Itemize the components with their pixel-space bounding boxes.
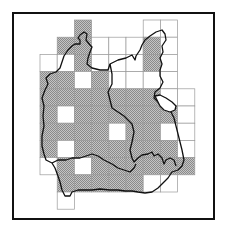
grid-cell-empty [57, 106, 74, 123]
grid-cell-empty [126, 37, 143, 54]
grid-cell-recorded [126, 175, 143, 192]
grid-cell-recorded [109, 158, 126, 175]
grid-cell-recorded [74, 37, 91, 54]
grid-cell-recorded [143, 106, 160, 123]
grid-cell-recorded [40, 72, 57, 89]
grid-cell-recorded [74, 89, 91, 106]
grid-cell-recorded [143, 158, 160, 175]
grid-cell-empty [143, 72, 160, 89]
grid-cell-recorded [92, 123, 109, 140]
grid-cell-empty [109, 123, 126, 140]
grid-cell-recorded [92, 106, 109, 123]
map-canvas [0, 0, 229, 235]
grid-cell-recorded [143, 123, 160, 140]
grid-cell-recorded [57, 89, 74, 106]
grid-cell-recorded [143, 54, 160, 71]
grid-cell-empty [143, 175, 160, 192]
grid-cell-empty [160, 20, 177, 37]
grid-cell-recorded [126, 140, 143, 157]
grid-cell-empty [74, 72, 91, 89]
grid-cell-empty [57, 140, 74, 157]
grid-cell-empty [160, 123, 177, 140]
grid-cell-empty [178, 106, 195, 123]
grid-cell-recorded [74, 20, 91, 37]
grid-cell-empty [126, 72, 143, 89]
grid-cell-recorded [92, 72, 109, 89]
grid-cell-recorded [109, 140, 126, 157]
grid-cell-recorded [92, 158, 109, 175]
grid-cell-recorded [109, 106, 126, 123]
grid-cell-recorded [160, 140, 177, 157]
grid-cell-empty [92, 37, 109, 54]
grid-cell-empty [109, 37, 126, 54]
grid-cell-recorded [57, 72, 74, 89]
grid-cell-empty [160, 72, 177, 89]
grid-cell-empty [74, 158, 91, 175]
grid-cell-recorded [178, 158, 195, 175]
grid-cell-empty [178, 123, 195, 140]
grid-cell-empty [178, 89, 195, 106]
grid-cell-recorded [74, 106, 91, 123]
grid-cell-recorded [57, 123, 74, 140]
grid-cell-recorded [126, 89, 143, 106]
grid-cell-empty [57, 192, 74, 209]
grid-cell-empty [40, 54, 57, 71]
distribution-map [0, 0, 229, 235]
grid-cell-recorded [74, 123, 91, 140]
grid-cell-recorded [92, 89, 109, 106]
grid-cell-empty [160, 54, 177, 71]
